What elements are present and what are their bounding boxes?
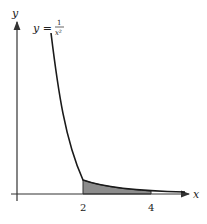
svg-text:y =: y = [32,22,52,35]
curve [51,33,185,192]
x-tick-2: 2 [80,202,86,213]
svg-text:x²: x² [55,29,62,37]
x-tick-4: 4 [148,202,154,213]
svg-text:1: 1 [57,19,61,27]
graph: y x 2 4 y = 1 x² [0,0,207,224]
function-label: y = 1 x² [32,19,64,37]
y-axis-label: y [11,7,19,20]
x-axis-label: x [193,188,200,201]
